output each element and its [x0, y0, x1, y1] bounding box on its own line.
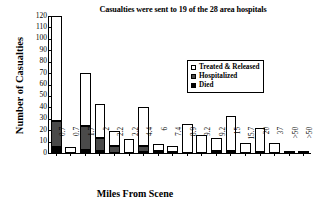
- y-axis-tick-label: 80: [40, 56, 48, 65]
- x-axis-tick-mark: [230, 153, 231, 156]
- y-axis-tick-label: 10: [40, 136, 48, 145]
- y-axis-title: Number of Casualties: [14, 16, 25, 156]
- x-axis-tick-mark: [201, 153, 202, 156]
- x-axis-tick-label: 2: [103, 127, 111, 157]
- y-axis-tick-label: 20: [40, 125, 48, 134]
- black-square-icon: [191, 83, 196, 88]
- x-axis-tick-label: 9.2: [204, 127, 212, 157]
- x-axis-tick-label: 2.2: [132, 127, 140, 157]
- x-axis-tick-label: 9.2: [219, 127, 227, 157]
- x-axis-tick-mark: [56, 153, 57, 156]
- x-axis-tick-mark: [187, 153, 188, 156]
- x-axis-tick-mark: [274, 153, 275, 156]
- y-axis-tick-label: 70: [40, 68, 48, 77]
- y-axis-tick-label: 0: [43, 148, 47, 157]
- x-axis-tick-label: 7.4: [175, 127, 183, 157]
- x-axis-tick-label: 0.7: [59, 127, 67, 157]
- x-axis-tick-mark: [143, 153, 144, 156]
- x-axis-tick-label: 15.7: [248, 127, 256, 157]
- y-axis-tick: 70: [22, 73, 52, 74]
- x-axis-tick-label: 37: [277, 127, 285, 157]
- y-axis-tick-label: 60: [40, 79, 48, 88]
- chart-title: Casualties were sent to 19 of the 28 are…: [58, 5, 308, 14]
- y-axis-tick-label: 40: [40, 102, 48, 111]
- x-axis-tick-mark: [260, 153, 261, 156]
- y-axis-tick: 20: [22, 130, 52, 131]
- y-axis-tick: 120: [22, 16, 52, 17]
- legend-item: Treated & Released: [191, 63, 259, 72]
- x-axis-title: Miles From Scene: [40, 188, 230, 199]
- x-axis-tick-mark: [99, 153, 100, 156]
- legend-item-label: Treated & Released: [199, 63, 259, 72]
- gray-square-icon: [191, 74, 196, 79]
- y-axis-tick-label: 110: [36, 22, 47, 31]
- x-axis-tick-label: 20: [263, 127, 271, 157]
- bar-segment-treated-released: [80, 73, 91, 126]
- x-axis-tick-mark: [114, 153, 115, 156]
- y-axis-tick: 50: [22, 96, 52, 97]
- legend-item-label: Hospitalized: [199, 72, 237, 81]
- x-axis-tick-label: 15: [234, 127, 242, 157]
- y-axis-tick: 100: [22, 39, 52, 40]
- x-axis-tick-label: 0.7: [73, 127, 81, 157]
- x-axis-tick-label: 8.9: [190, 127, 198, 157]
- x-axis-tick-label: >50: [292, 127, 300, 157]
- x-axis-tick-label: 4.4: [146, 127, 154, 157]
- y-axis-tick: 90: [22, 50, 52, 51]
- chart-figure: Casualties were sent to 19 of the 28 are…: [0, 0, 316, 207]
- legend-item: Died: [191, 81, 259, 90]
- plot-area: 0102030405060708090100110120 0.70.71.722…: [48, 16, 311, 154]
- bar-segment-treated-released: [51, 16, 62, 121]
- y-axis-tick-label: 50: [40, 90, 48, 99]
- chart-legend: Treated & ReleasedHospitalizedDied: [187, 60, 264, 93]
- legend-item-label: Died: [199, 81, 213, 90]
- x-axis-tick-mark: [289, 153, 290, 156]
- y-axis-tick-label: 90: [40, 45, 48, 54]
- x-axis-tick-label: 2.2: [117, 127, 125, 157]
- y-axis-tick: 0: [22, 153, 52, 154]
- x-axis-tick-mark: [172, 153, 173, 156]
- y-axis-tick-label: 120: [36, 11, 47, 20]
- y-axis-tick-label: 30: [40, 113, 48, 122]
- y-axis-tick: 40: [22, 107, 52, 108]
- y-axis-tick-label: 100: [36, 33, 47, 42]
- legend-item: Hospitalized: [191, 72, 259, 81]
- x-axis-tick-mark: [303, 153, 304, 156]
- y-axis-tick-mark: [48, 153, 51, 154]
- y-axis-tick: 30: [22, 119, 52, 120]
- x-axis-tick-label: >50: [306, 127, 314, 157]
- x-axis-tick-label: 6: [161, 127, 169, 157]
- x-axis-tick-mark: [158, 153, 159, 156]
- x-axis-tick-mark: [70, 153, 71, 156]
- y-axis-tick: 60: [22, 85, 52, 86]
- x-axis-tick-mark: [129, 153, 130, 156]
- x-axis-tick-label: 1.7: [88, 127, 96, 157]
- x-axis-tick-mark: [245, 153, 246, 156]
- x-axis-tick-mark: [216, 153, 217, 156]
- x-axis-tick-mark: [85, 153, 86, 156]
- y-axis-tick: 10: [22, 142, 52, 143]
- open-square-icon: [191, 65, 196, 70]
- y-axis-tick: 110: [22, 27, 52, 28]
- y-axis-tick: 80: [22, 62, 52, 63]
